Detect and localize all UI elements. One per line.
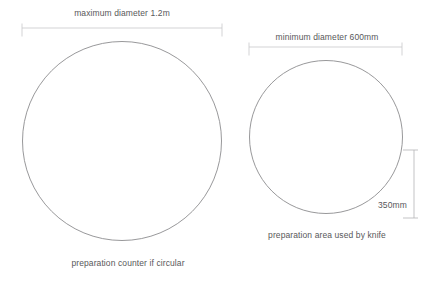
knife-preparation-area-circle (250, 61, 403, 214)
left-figure-group (22, 24, 222, 241)
left-dimension-line (22, 24, 222, 37)
diagram-canvas: maximum diameter 1.2m preparation counte… (0, 0, 435, 287)
left-figure-caption: preparation counter if circular (71, 259, 184, 268)
technical-drawing (0, 0, 435, 287)
preparation-counter-circle (23, 42, 222, 241)
depth-dimension-label: 350mm (378, 201, 407, 210)
right-figure-caption: preparation area used by knife (268, 231, 386, 240)
left-dimension-label: maximum diameter 1.2m (74, 9, 170, 18)
right-dimension-label: minimum diameter 600mm (276, 33, 379, 42)
right-dimension-line (249, 43, 402, 56)
right-figure-group (249, 43, 418, 219)
